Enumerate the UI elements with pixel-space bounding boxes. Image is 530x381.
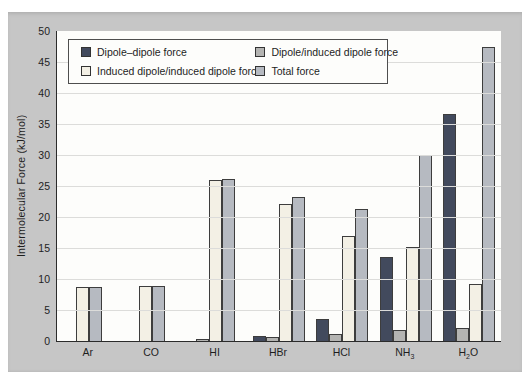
x-tick-label-Ar: Ar: [56, 346, 119, 360]
y-axis-ticks: 05101520253035404550: [8, 31, 50, 341]
x-tick-label-H2O: H2O: [437, 346, 500, 360]
gridline: [57, 93, 501, 94]
legend-label: Induced dipole/induced dipole force: [97, 65, 262, 77]
bar-HCl-series0: [316, 319, 329, 341]
bar-CO-series2: [139, 286, 152, 341]
y-tick-label: 5: [8, 304, 50, 316]
x-tick-label-HCl: HCl: [310, 346, 373, 360]
legend-swatch-icon: [255, 47, 265, 57]
legend-label: Total force: [271, 65, 319, 77]
gridline: [57, 124, 501, 125]
y-tick-label: 15: [8, 242, 50, 254]
gridline: [57, 248, 501, 249]
legend-item-series0: Dipole–dipole force: [81, 46, 255, 58]
bar-Ar-series3: [89, 287, 102, 341]
bar-HBr-series0: [253, 336, 266, 341]
legend-swatch-icon: [81, 47, 91, 57]
bar-HCl-series3: [355, 209, 368, 341]
y-tick-label: 25: [8, 180, 50, 192]
y-tick-label: 30: [8, 149, 50, 161]
bar-H2O-series0: [443, 114, 456, 341]
gridline: [57, 217, 501, 218]
gridline: [57, 155, 501, 156]
bar-H2O-series1: [456, 328, 469, 341]
x-tick-label-HI: HI: [183, 346, 246, 360]
y-tick-label: 10: [8, 273, 50, 285]
x-axis-labels: ArCOHIHBrHClNH3H2O: [56, 346, 500, 360]
x-tick-label-CO: CO: [119, 346, 182, 360]
bar-H2O-series2: [469, 284, 482, 341]
x-tick-label-NH3: NH3: [373, 346, 436, 360]
gridline: [57, 186, 501, 187]
y-tick-label: 50: [8, 25, 50, 37]
bar-HI-series3: [222, 179, 235, 341]
y-tick-label: 20: [8, 211, 50, 223]
gridline: [57, 310, 501, 311]
bar-NH3-series1: [393, 330, 406, 341]
y-tick-label: 45: [8, 56, 50, 68]
bar-HI-series2: [209, 180, 222, 341]
chart-figure: Intermolecular Force (kJ/mol) 0510152025…: [8, 12, 522, 372]
bar-Ar-series2: [76, 287, 89, 341]
bar-HBr-series1: [266, 337, 279, 341]
legend-item-series1: Dipole/induced dipole force: [255, 46, 387, 58]
bar-NH3-series2: [406, 247, 419, 341]
legend-item-series2: Induced dipole/induced dipole force: [81, 65, 255, 77]
bar-HI-series1: [196, 339, 209, 341]
bar-HCl-series2: [342, 236, 355, 341]
gridline: [57, 279, 501, 280]
bar-HBr-series3: [292, 197, 305, 341]
legend-swatch-icon: [81, 66, 91, 76]
bar-HBr-series2: [279, 204, 292, 341]
legend-label: Dipole/induced dipole force: [271, 46, 398, 58]
y-tick-label: 0: [8, 335, 50, 347]
legend-swatch-icon: [255, 66, 265, 76]
y-tick-label: 35: [8, 118, 50, 130]
legend-box: Dipole–dipole forceDipole/induced dipole…: [68, 39, 388, 84]
legend-label: Dipole–dipole force: [97, 46, 187, 58]
bar-H2O-series3: [482, 47, 495, 341]
bar-HCl-series1: [329, 334, 342, 341]
bar-CO-series3: [152, 286, 165, 341]
bar-NH3-series0: [380, 257, 393, 341]
y-tick-label: 40: [8, 87, 50, 99]
legend-item-series3: Total force: [255, 65, 387, 77]
x-tick-label-HBr: HBr: [246, 346, 309, 360]
